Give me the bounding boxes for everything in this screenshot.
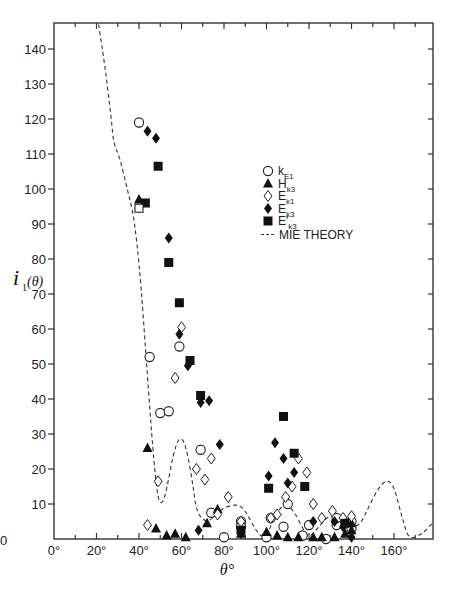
data-point-open-circle bbox=[175, 342, 184, 351]
y-tick-label: 50 bbox=[32, 357, 46, 372]
y-tick-label: 30 bbox=[32, 427, 46, 442]
data-point-open-circle bbox=[145, 352, 154, 361]
data-point-filled-diamond bbox=[290, 467, 298, 478]
data-point-open-circle bbox=[164, 407, 173, 416]
data-point-filled-diamond bbox=[205, 395, 213, 406]
data-point-filled-square bbox=[175, 298, 184, 307]
y-axis-label: i 1 (θ) bbox=[13, 265, 44, 293]
data-point-open-diamond bbox=[192, 464, 200, 475]
legend-label: MIE THEORY bbox=[279, 228, 353, 242]
data-point-filled-triangle bbox=[162, 530, 172, 540]
y-axis-label-arg: (θ) bbox=[27, 274, 44, 290]
legend-filled-square-icon bbox=[264, 217, 273, 226]
data-point-open-circle bbox=[219, 533, 228, 542]
x-axis-label: θ° bbox=[220, 561, 235, 578]
data-point-filled-triangle bbox=[170, 528, 180, 538]
data-point-filled-square bbox=[196, 391, 205, 400]
data-point-filled-triangle bbox=[143, 443, 153, 453]
x-tick-label: 140° bbox=[338, 543, 365, 558]
data-point-open-diamond bbox=[201, 474, 209, 485]
data-point-filled-square bbox=[290, 449, 299, 458]
data-point-open-square bbox=[135, 204, 143, 212]
origin-label: 0 bbox=[0, 533, 7, 548]
data-point-filled-square bbox=[186, 356, 195, 365]
y-tick-label: 100 bbox=[24, 182, 46, 197]
y-tick-label: 120 bbox=[24, 112, 46, 127]
plot-axes: 0°20°40°60°80°100°120°140°160°1020304050… bbox=[24, 23, 433, 558]
x-tick-label: 20° bbox=[87, 543, 107, 558]
data-point-filled-square bbox=[279, 412, 288, 421]
data-point-filled-square bbox=[154, 162, 163, 171]
y-axis-label-i: i bbox=[13, 265, 19, 290]
data-point-open-diamond bbox=[309, 499, 317, 510]
y-tick-label: 40 bbox=[32, 392, 46, 407]
data-point-filled-diamond bbox=[195, 525, 203, 536]
data-point-filled-triangle bbox=[151, 523, 161, 533]
legend: kE1Hk3Ek1Ek3E′k3MIE THEORY bbox=[261, 164, 353, 242]
data-point-open-circle bbox=[279, 522, 288, 531]
y-tick-label: 130 bbox=[24, 77, 46, 92]
y-tick-label: 80 bbox=[32, 252, 46, 267]
data-point-filled-square bbox=[237, 526, 246, 535]
data-point-filled-diamond bbox=[144, 126, 152, 137]
mie-scattering-chart: 0°20°40°60°80°100°120°140°160°1020304050… bbox=[0, 0, 451, 592]
x-tick-label: 80° bbox=[214, 543, 234, 558]
data-point-filled-diamond bbox=[152, 133, 160, 144]
mie-theory-curve bbox=[99, 25, 433, 538]
data-point-filled-square bbox=[341, 519, 350, 528]
y-tick-label: 90 bbox=[32, 217, 46, 232]
data-point-filled-triangle bbox=[272, 530, 282, 540]
data-point-open-circle bbox=[196, 445, 205, 454]
data-point-open-circle bbox=[156, 408, 165, 417]
data-point-open-diamond bbox=[318, 513, 326, 524]
data-point-filled-diamond bbox=[265, 471, 273, 482]
x-tick-label: 100° bbox=[253, 543, 280, 558]
y-tick-label: 60 bbox=[32, 322, 46, 337]
data-point-filled-square bbox=[300, 482, 309, 491]
plot-frame bbox=[54, 23, 433, 539]
data-point-open-diamond bbox=[207, 453, 215, 464]
data-point-open-diamond bbox=[303, 467, 311, 478]
data-point-filled-triangle bbox=[308, 532, 318, 542]
legend-open-circle-icon bbox=[263, 166, 272, 175]
mie-theory-line bbox=[99, 25, 433, 538]
data-points bbox=[134, 118, 357, 544]
legend-filled-triangle-icon bbox=[263, 178, 273, 188]
data-point-filled-diamond bbox=[271, 437, 279, 448]
data-point-open-diamond bbox=[224, 492, 232, 503]
x-tick-label: 0° bbox=[48, 543, 60, 558]
data-point-open-diamond bbox=[144, 520, 152, 531]
data-point-open-circle bbox=[134, 118, 143, 127]
x-tick-label: 60° bbox=[172, 543, 192, 558]
x-tick-label: 40° bbox=[129, 543, 149, 558]
data-point-filled-triangle bbox=[330, 532, 340, 542]
y-tick-label: 70 bbox=[32, 287, 46, 302]
data-point-filled-triangle bbox=[283, 532, 293, 542]
data-point-filled-square bbox=[264, 484, 273, 493]
legend-filled-diamond-icon bbox=[264, 203, 272, 214]
y-tick-label: 20 bbox=[32, 462, 46, 477]
data-point-filled-square bbox=[164, 258, 173, 267]
data-point-filled-diamond bbox=[280, 453, 288, 464]
legend-open-diamond-icon bbox=[264, 191, 272, 202]
y-tick-label: 110 bbox=[25, 147, 46, 162]
y-tick-label: 140 bbox=[24, 42, 46, 57]
x-tick-label: 120° bbox=[296, 543, 323, 558]
data-point-open-diamond bbox=[171, 373, 179, 384]
data-point-filled-triangle bbox=[181, 532, 191, 542]
y-tick-label: 10 bbox=[32, 497, 46, 512]
x-tick-label: 160° bbox=[381, 543, 408, 558]
data-point-filled-diamond bbox=[216, 439, 224, 450]
data-point-filled-diamond bbox=[165, 233, 173, 244]
